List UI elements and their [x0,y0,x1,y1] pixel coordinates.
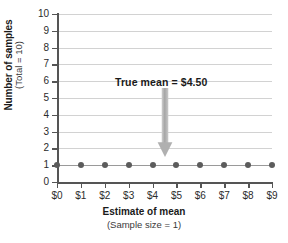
y-tick-label: 1 [19,160,49,170]
x-tick-mark [153,183,154,188]
gridline [57,31,272,32]
y-tick-mark [52,115,57,116]
x-tick-mark [57,183,58,188]
y-tick-mark [52,31,57,32]
y-tick-label: 3 [19,127,49,137]
x-axis-label: Estimate of mean (Sample size = 1) [0,206,288,230]
y-tick-label: 2 [19,143,49,153]
data-point [150,162,156,168]
x-tick-mark [81,183,82,188]
data-connector-line [57,165,272,166]
y-tick-label: 6 [19,76,49,86]
x-tick-mark [248,183,249,188]
x-tick-mark [200,183,201,188]
gridline [57,48,272,49]
y-tick-mark [52,81,57,82]
y-tick-mark [52,64,57,65]
y-tick-mark [52,148,57,149]
data-point [102,162,108,168]
y-tick-label: 0 [19,177,49,187]
gridline [57,64,272,65]
gridline [57,14,272,15]
y-tick-label: 4 [19,110,49,120]
y-tick-mark [52,132,57,133]
x-tick-mark [105,183,106,188]
y-tick-mark [52,14,57,15]
x-tick-mark [272,183,273,188]
down-arrow-icon [153,88,177,162]
y-tick-label: 7 [19,59,49,69]
x-axis-label-main: Estimate of mean [0,206,288,219]
y-tick-mark [52,48,57,49]
x-tick-mark [224,183,225,188]
y-tick-label: 10 [19,9,49,19]
x-axis-line [57,182,273,184]
chart-container: Number of samples (Total = 10) 012345678… [0,0,288,243]
x-tick-label: $9 [257,191,287,201]
y-tick-label: 9 [19,26,49,36]
x-axis-label-sub: (Sample size = 1) [0,219,288,231]
x-tick-mark [129,183,130,188]
y-tick-label: 8 [19,43,49,53]
data-point [126,162,132,168]
y-axis-line [57,13,59,183]
x-tick-mark [176,183,177,188]
data-point [269,162,275,168]
true-mean-annotation-label: True mean = $4.50 [115,76,207,88]
y-tick-label: 5 [19,93,49,103]
y-tick-mark [52,98,57,99]
